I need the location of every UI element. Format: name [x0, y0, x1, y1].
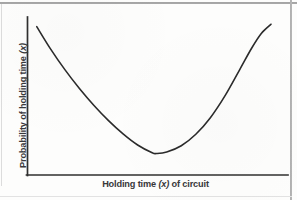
y-axis-label: Probability of holding time (x): [19, 43, 28, 168]
plot-area: [0, 0, 297, 200]
x-axis-label-variable: (x): [158, 179, 169, 189]
y-axis-label-variable: (x): [18, 43, 28, 54]
figure-container: Probability of holding time (x) Holding …: [0, 0, 297, 200]
x-axis-label-prefix: Holding time: [102, 179, 158, 189]
x-axis-label: Holding time (x) of circuit: [0, 180, 297, 189]
probability-curve: [37, 24, 271, 153]
y-axis-label-prefix: Probability of holding time: [18, 54, 28, 168]
x-axis-label-suffix: of circuit: [169, 179, 209, 189]
